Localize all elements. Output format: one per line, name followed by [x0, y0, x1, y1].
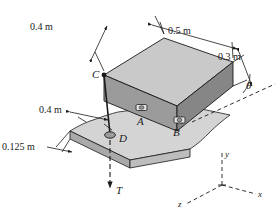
- label-block-depth: 0.4 m: [30, 22, 53, 32]
- label-plate-thickness: 0.125 m: [2, 142, 35, 152]
- label-axis-y: y: [225, 150, 229, 159]
- support-bracket-a: [136, 105, 147, 111]
- support-bracket-b: [174, 117, 185, 123]
- point-c-marker: [102, 73, 107, 78]
- point-d-eyebolt: [105, 132, 116, 138]
- label-axis-z: z: [178, 200, 182, 209]
- dimension-plate-thickness: [47, 131, 72, 152]
- label-axis-x: x: [258, 190, 262, 199]
- label-point-c: C: [92, 69, 99, 80]
- label-force-t: T: [116, 185, 122, 196]
- label-point-a: A: [137, 116, 144, 127]
- label-point-d: D: [119, 133, 127, 144]
- label-angle-theta: θ: [246, 80, 251, 91]
- coordinate-axes: [186, 152, 256, 204]
- label-plate-offset: 0.4 m: [39, 105, 62, 115]
- statics-figure: 0.4 m 0.5 m 0.3 m 0.4 m 0.125 m C D A B …: [0, 0, 280, 217]
- label-point-b: B: [173, 127, 180, 138]
- label-block-length: 0.5 m: [168, 26, 191, 36]
- label-block-height: 0.3 m: [218, 52, 241, 62]
